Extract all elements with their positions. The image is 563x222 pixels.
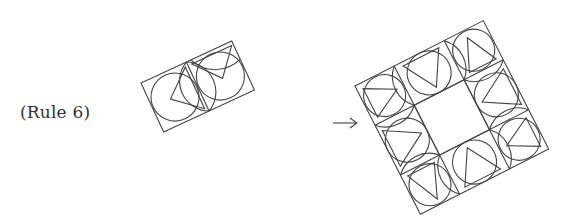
tiling-figure — [0, 0, 563, 222]
source-tile — [141, 41, 254, 132]
arrow-icon — [333, 118, 357, 128]
result-tile — [355, 21, 549, 215]
diagram-stage: (Rule 6) — [0, 0, 563, 222]
